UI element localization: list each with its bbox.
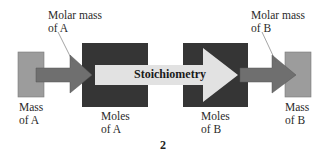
label-line: of B bbox=[285, 114, 309, 127]
label-line: of A bbox=[48, 22, 102, 35]
label-line: of B bbox=[201, 123, 230, 136]
label-molar-mass-b: Molar mass of B bbox=[251, 9, 305, 35]
label-line: Molar mass bbox=[48, 9, 102, 22]
label-line: Moles bbox=[201, 110, 230, 123]
label-molar-mass-a: Molar mass of A bbox=[48, 9, 102, 35]
leader-line-molar-mass-a bbox=[58, 32, 73, 62]
label-line: Molar mass bbox=[251, 9, 305, 22]
label-line: Mass bbox=[19, 101, 43, 114]
label-moles-a: Moles of A bbox=[101, 110, 130, 136]
label-line: of A bbox=[19, 114, 43, 127]
label-mass-b: Mass of B bbox=[285, 101, 309, 127]
label-mass-a: Mass of A bbox=[19, 101, 43, 127]
figure-number: 2 bbox=[160, 138, 166, 153]
label-moles-b: Moles of B bbox=[201, 110, 230, 136]
leader-line-molar-mass-b bbox=[262, 32, 276, 62]
label-line: Mass bbox=[285, 101, 309, 114]
label-line: of A bbox=[101, 123, 130, 136]
label-line: Moles bbox=[101, 110, 130, 123]
stoichiometry-label: Stoichiometry bbox=[134, 67, 206, 82]
label-line: of B bbox=[251, 22, 305, 35]
